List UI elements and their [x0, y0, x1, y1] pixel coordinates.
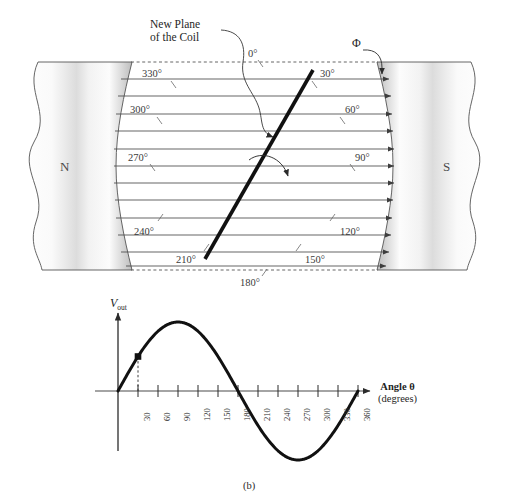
chart-tick-label-180: 180: [242, 408, 252, 421]
chart-x-axis-label-main: Angle θ: [380, 381, 414, 392]
coil-plane-annotation: New Plane of the Coil: [150, 18, 200, 44]
angle-label-270: 270°: [128, 152, 148, 164]
chart-tick-label-360: 360: [362, 408, 372, 421]
angle-label-180: 180°: [240, 277, 260, 289]
flux-symbol-label: Φ: [352, 37, 361, 50]
angle-label-0: 0°: [248, 48, 257, 60]
angle-label-300: 300°: [130, 104, 150, 116]
chart-tick-label-90: 90: [182, 413, 192, 422]
chart-tick-label-330: 330: [342, 408, 352, 421]
operating-point-marker: [135, 353, 142, 360]
north-pole-label: N: [60, 160, 69, 175]
chart-y-axis-label: Vout: [110, 297, 127, 313]
angle-label-240: 240°: [134, 226, 154, 238]
chart-tick-label-30: 30: [142, 413, 152, 422]
chart-tick-label-300: 300: [322, 408, 332, 421]
figure-container: New Plane of the Coil Φ N S 0°330°300°27…: [0, 0, 509, 504]
chart-tick-label-150: 150: [222, 408, 232, 421]
chart-y-axis-label-sub: out: [117, 303, 127, 312]
coil-plane-line: [205, 70, 313, 259]
angle-label-210: 210°: [176, 254, 196, 266]
chart-x-axis-label-sub: (degrees): [378, 393, 417, 405]
coil-plane-leader-line: [221, 30, 273, 137]
coil-plane-annotation-line2: of the Coil: [150, 31, 199, 43]
chart-tick-label-60: 60: [162, 413, 172, 422]
figure-svg: [0, 0, 509, 504]
south-pole-label: S: [443, 160, 450, 175]
chart-tick-label-210: 210: [262, 408, 272, 421]
angle-label-150: 150°: [305, 254, 325, 266]
angle-label-60: 60°: [345, 104, 360, 116]
chart-tick-label-240: 240: [282, 408, 292, 421]
coil-plane-annotation-line1: New Plane: [150, 18, 200, 30]
chart-tick-label-270: 270: [302, 408, 312, 421]
angle-label-30: 30°: [320, 68, 335, 80]
chart-x-axis-label: Angle θ (degrees): [378, 381, 417, 405]
angle-label-330: 330°: [142, 68, 162, 80]
angle-label-120: 120°: [340, 226, 360, 238]
angle-label-ticks: [150, 60, 355, 276]
angle-label-90: 90°: [355, 152, 370, 164]
figure-caption: (b): [243, 480, 255, 492]
chart-tick-label-120: 120: [202, 408, 212, 421]
